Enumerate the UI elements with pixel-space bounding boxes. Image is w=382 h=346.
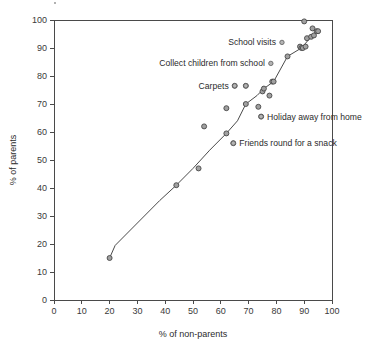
y-tick-label: 70 (37, 99, 47, 109)
data-point (243, 102, 248, 107)
y-tick-label: 30 (37, 211, 47, 221)
data-point (256, 104, 261, 109)
y-tick-label: 60 (37, 127, 47, 137)
y-tick-label: 40 (37, 183, 47, 193)
annotation-label: School visits (228, 37, 276, 47)
x-tick-label: 10 (77, 306, 87, 316)
stray-speck (54, 2, 56, 4)
annotation-marker (244, 84, 248, 88)
annotation-marker (259, 114, 263, 118)
data-point (316, 29, 321, 34)
y-tick-label: 20 (37, 239, 47, 249)
data-point (285, 54, 290, 59)
chart-canvas: 0102030405060708090100 01020304050607080… (0, 0, 382, 346)
data-point (224, 106, 229, 111)
x-tick-label: 90 (299, 306, 309, 316)
data-point (261, 86, 266, 91)
annotation-marker (231, 141, 235, 145)
y-axis-title: % of parents (8, 134, 18, 185)
x-axis-tick-labels: 0102030405060708090100 (51, 306, 339, 316)
x-tick-label: 70 (244, 306, 254, 316)
data-point (202, 124, 207, 129)
annotation-marker (269, 61, 273, 65)
data-point (196, 166, 201, 171)
annotation-label: Collect children from school (159, 58, 265, 68)
x-tick-label: 20 (105, 306, 115, 316)
data-point (267, 93, 272, 98)
x-tick-label: 30 (132, 306, 142, 316)
x-tick-label: 50 (188, 306, 198, 316)
annotation-label: Holiday away from home (267, 112, 362, 122)
annotation-marker (233, 84, 237, 88)
annotation-label: Carpets (199, 81, 229, 91)
y-axis-tick-labels: 0102030405060708090100 (32, 15, 47, 305)
y-tick-label: 100 (32, 15, 47, 25)
x-tick-label: 100 (324, 306, 339, 316)
x-tick-label: 80 (271, 306, 281, 316)
data-point (107, 256, 112, 261)
data-point (271, 79, 276, 84)
y-tick-label: 10 (37, 267, 47, 277)
data-point (224, 131, 229, 136)
x-axis-title: % of non-parents (159, 329, 228, 339)
annotation-label: Friends round for a snack (239, 138, 337, 148)
y-tick-label: 90 (37, 43, 47, 53)
y-tick-label: 0 (42, 295, 47, 305)
x-tick-label: 60 (216, 306, 226, 316)
data-point (174, 183, 179, 188)
x-tick-label: 0 (51, 306, 56, 316)
data-point (302, 19, 307, 24)
scatter-plot-figure: 0102030405060708090100 01020304050607080… (0, 0, 382, 346)
data-point (303, 44, 308, 49)
y-tick-label: 80 (37, 71, 47, 81)
annotation-marker (280, 40, 284, 44)
x-tick-label: 40 (160, 306, 170, 316)
y-tick-label: 50 (37, 155, 47, 165)
